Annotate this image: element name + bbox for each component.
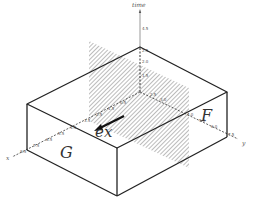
x-tick: 6.5 — [46, 137, 53, 142]
time-tick: 1.5 — [142, 73, 149, 78]
time-axis-label: time — [132, 1, 146, 8]
y-tick: 3.0 — [160, 97, 167, 102]
time-tick: 4.5 — [142, 26, 149, 31]
diagram-canvas: time 4.5 2.5 2.0 1.5 2.5 3.0 4.0 5.0 6.0… — [0, 0, 253, 205]
x-axis-label: x — [6, 154, 10, 161]
y-tick: 7.5 — [228, 132, 235, 137]
hatched-plane — [89, 41, 189, 168]
face-label-f: F — [200, 106, 213, 125]
y-axis-label: y — [241, 139, 246, 147]
face-label-g: G — [60, 143, 73, 162]
x-tick: 3.5 — [84, 118, 91, 123]
time-tick: 2.0 — [142, 59, 149, 64]
x-tick: 5.5 — [58, 131, 65, 136]
ex-label: ex — [95, 123, 113, 141]
y-tick: 2.5 — [150, 92, 157, 97]
x-tick: 0.5 — [120, 100, 127, 105]
x-tick: 2.5 — [96, 112, 103, 117]
x-tick: 7.5 — [33, 143, 40, 148]
x-tick: 8.5 — [20, 149, 27, 154]
x-tick: 1.5 — [108, 106, 115, 111]
box-diagram: time 4.5 2.5 2.0 1.5 2.5 3.0 4.0 5.0 6.0… — [0, 0, 253, 205]
y-tick: 4.0 — [187, 112, 194, 117]
